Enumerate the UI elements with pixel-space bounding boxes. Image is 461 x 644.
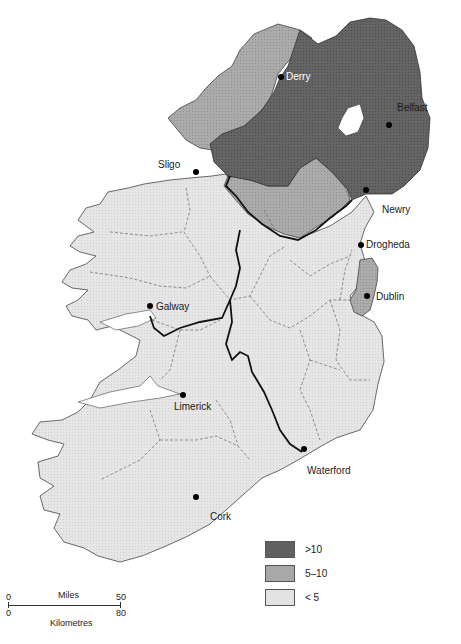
scale-km-start: 0 [6,608,11,618]
city-drogheda: Drogheda [358,239,410,250]
scale-miles-start: 0 [6,592,11,602]
svg-text:Waterford: Waterford [307,465,351,476]
scale-miles-end: 50 [116,592,126,602]
svg-text:Limerick: Limerick [174,401,212,412]
region-low [32,174,384,562]
legend-swatch-mid [265,565,295,582]
legend-swatch-high [265,541,295,558]
city-sligo: Sligo [158,159,199,175]
legend-label-low: < 5 [305,592,319,603]
svg-text:Drogheda: Drogheda [366,239,410,250]
svg-text:Belfast: Belfast [397,102,428,113]
legend-item-low: < 5 [265,586,327,608]
legend-label-mid: 5–10 [305,568,327,579]
svg-text:Derry: Derry [286,71,310,82]
legend-item-high: >10 [265,538,327,560]
scale-line [8,605,120,606]
scale-km-label: Kilometres [50,618,93,628]
legend-item-mid: 5–10 [265,562,327,584]
svg-text:Sligo: Sligo [158,159,181,170]
svg-text:Newry: Newry [382,204,410,215]
scale-bar: Miles 0 50 0 80 Kilometres [6,590,156,640]
svg-text:Cork: Cork [210,511,232,522]
legend-swatch-low [265,589,295,606]
scale-km-end: 80 [116,608,126,618]
ireland-map: Derry Belfast Sligo Newry Drogheda Dubli… [0,0,461,644]
svg-text:Dublin: Dublin [376,291,404,302]
scale-miles-label: Miles [58,590,79,600]
svg-text:Galway: Galway [156,301,189,312]
legend-label-high: >10 [305,544,322,555]
legend: >10 5–10 < 5 [265,538,327,610]
